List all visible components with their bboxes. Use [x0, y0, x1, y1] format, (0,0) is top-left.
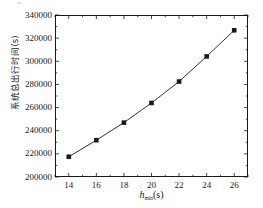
- data-point-marker: [66, 154, 71, 159]
- data-point-marker: [177, 79, 182, 84]
- axis-ticks-layer: [55, 15, 248, 177]
- y-axis-title: 系统总出行时间(s): [11, 13, 20, 133]
- x-axis-title-unit: (s): [153, 189, 164, 200]
- data-point-marker: [122, 120, 127, 125]
- series-markers-0: [66, 28, 236, 159]
- data-point-marker: [232, 28, 237, 33]
- chart-figure: in 2000002200002400002600002800003000003…: [0, 0, 263, 208]
- data-point-marker: [149, 101, 154, 106]
- data-point-marker: [94, 138, 99, 143]
- series-line-0: [69, 30, 234, 156]
- data-point-marker: [204, 54, 209, 59]
- x-axis-title-subscript: min: [144, 195, 153, 201]
- plot-data-layer: [55, 15, 248, 177]
- x-axis-title: hmin(s): [55, 189, 248, 202]
